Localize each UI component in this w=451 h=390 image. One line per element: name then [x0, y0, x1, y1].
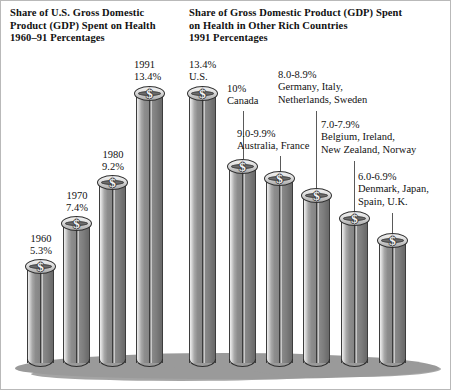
bar-us: $ — [189, 86, 216, 363]
left-panel-title: Share of U.S. Gross Domestic Product (GD… — [10, 7, 185, 45]
dollar-sign-icon: $ — [25, 258, 56, 275]
bar-seam-highlight — [394, 239, 395, 363]
bar-label-1991: 1991 13.4% — [134, 59, 194, 84]
coin-slot-icon: $ — [301, 188, 332, 204]
dollar-sign-icon: $ — [227, 158, 258, 175]
coin-slot-icon: $ — [25, 259, 56, 275]
chart-figure: Share of U.S. Gross Domestic Product (GD… — [0, 0, 451, 390]
right-panel-title: Share of Gross Domestic Product (GDP) Sp… — [189, 7, 444, 45]
dollar-sign-icon: $ — [97, 174, 128, 191]
bar-seam — [112, 181, 113, 363]
dollar-sign-icon: $ — [187, 85, 218, 102]
bar-seam-highlight — [244, 165, 245, 363]
bar-germany-group: $ — [303, 188, 330, 363]
bar-1980: $ — [99, 175, 126, 363]
bar-seam — [40, 265, 41, 363]
leader-line-germany-group — [316, 111, 317, 188]
bar-australia-france: $ — [266, 171, 293, 363]
bar-seam-highlight — [281, 177, 282, 363]
dollar-sign-icon: $ — [134, 85, 165, 102]
leader-line-denmark-group — [392, 213, 393, 233]
bar-seam — [202, 92, 203, 363]
bar-seam — [392, 239, 393, 363]
dollar-sign-icon: $ — [264, 170, 295, 187]
bar-label-1980: 1980 9.2% — [87, 149, 139, 174]
bar-canada: $ — [229, 159, 256, 363]
bar-seam-highlight — [151, 92, 152, 363]
coin-slot-icon: $ — [264, 171, 295, 187]
bar-seam — [354, 217, 355, 363]
coin-slot-icon: $ — [339, 211, 370, 227]
bar-seam-highlight — [42, 265, 43, 363]
bar-belgium-group: $ — [341, 211, 368, 363]
bar-seam — [279, 177, 280, 363]
coin-slot-icon: $ — [97, 175, 128, 191]
leader-line-belgium-group — [354, 161, 355, 211]
bar-label-denmark-group: 6.0-6.9% Denmark, Japan, Spain, U.K. — [358, 171, 451, 208]
bar-label-belgium-group: 7.0-7.9% Belgium, Ireland, New Zealand, … — [321, 119, 443, 156]
bar-label-1970: 1970 7.4% — [51, 190, 103, 215]
bar-label-1960: 1960 5.3% — [15, 233, 67, 258]
bar-seam — [242, 165, 243, 363]
dollar-sign-icon: $ — [301, 187, 332, 204]
bar-seam — [149, 92, 150, 363]
bar-label-germany-group: 8.0-8.9% Germany, Italy, Netherlands, Sw… — [278, 69, 396, 106]
coin-slot-icon: $ — [187, 86, 218, 102]
dollar-sign-icon: $ — [61, 215, 92, 232]
bar-seam-highlight — [78, 222, 79, 363]
bar-seam-highlight — [356, 217, 357, 363]
coin-slot-icon: $ — [61, 216, 92, 232]
coin-slot-icon: $ — [134, 86, 165, 102]
dollar-sign-icon: $ — [377, 232, 408, 249]
bar-seam — [76, 222, 77, 363]
coin-slot-icon: $ — [227, 159, 258, 175]
coin-slot-icon: $ — [377, 233, 408, 249]
bar-seam-highlight — [318, 194, 319, 363]
bar-denmark-group: $ — [379, 233, 406, 363]
bar-label-us: 13.4% U.S. — [189, 59, 251, 84]
bar-1991: $ — [136, 86, 163, 363]
bar-seam-highlight — [204, 92, 205, 363]
bar-seam-highlight — [114, 181, 115, 363]
dollar-sign-icon: $ — [339, 210, 370, 227]
bar-1970: $ — [63, 216, 90, 363]
bar-seam — [316, 194, 317, 363]
bar-1960: $ — [27, 259, 54, 363]
